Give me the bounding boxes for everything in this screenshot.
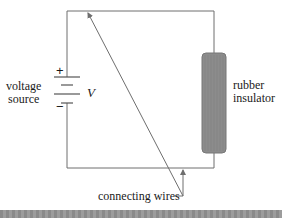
connecting-wires-pointers xyxy=(88,13,183,196)
circuit-svg xyxy=(0,0,282,218)
bottom-bar xyxy=(0,210,282,218)
plus-sign: + xyxy=(56,64,64,77)
insulator-label-line2: insulator xyxy=(233,92,275,105)
diagonal-arrow-icon xyxy=(88,13,183,196)
connecting-wires-label: connecting wires xyxy=(98,190,180,203)
voltage-source-label-line2: source xyxy=(8,93,39,106)
circuit-diagram: + − voltage source V rubber insulator co… xyxy=(0,0,282,218)
voltage-symbol: V xyxy=(87,86,95,99)
minus-sign: − xyxy=(56,100,64,113)
rubber-insulator-icon xyxy=(202,53,226,153)
